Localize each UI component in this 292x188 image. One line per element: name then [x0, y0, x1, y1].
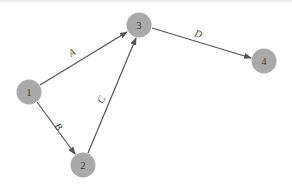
node-3: 3	[127, 13, 152, 38]
node-label-4: 4	[262, 56, 267, 67]
edge-label-a: A	[66, 46, 79, 60]
edge-label-b: B	[52, 121, 64, 132]
edge-label-c: C	[95, 94, 108, 105]
node-1: 1	[17, 80, 42, 105]
edge-d: D	[152, 27, 251, 58]
edge-b: B	[37, 102, 75, 154]
edge-label-d: D	[192, 27, 204, 40]
graph-canvas: A B C D 1 2 3 4	[0, 0, 292, 188]
node-label-3: 3	[137, 20, 142, 31]
node-label-1: 1	[27, 87, 32, 98]
node-4: 4	[252, 49, 277, 74]
node-2: 2	[71, 153, 96, 178]
node-label-2: 2	[81, 160, 86, 171]
edge-c: C	[88, 38, 136, 153]
edge-a: A	[40, 32, 127, 85]
